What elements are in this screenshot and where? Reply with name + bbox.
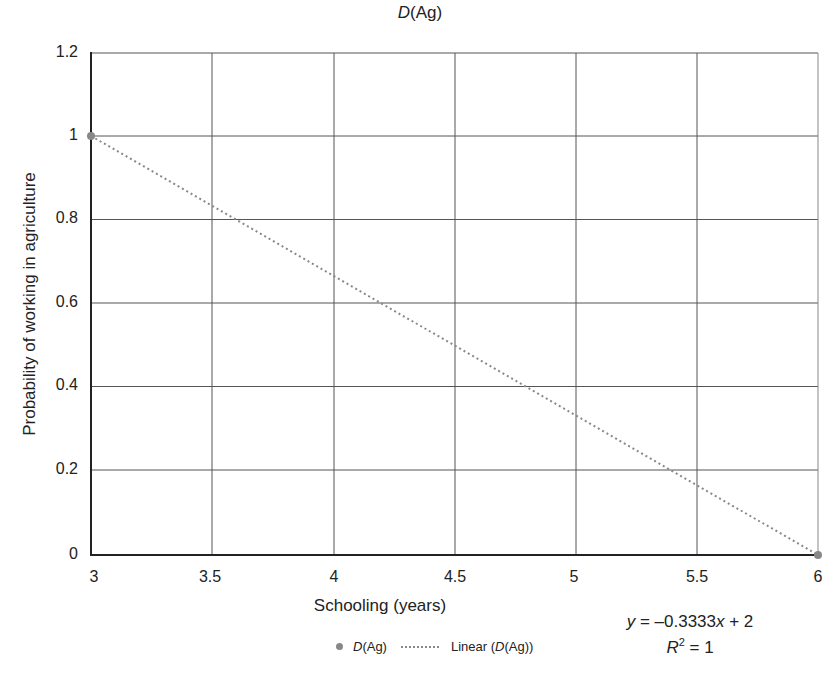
x-tick: 6 bbox=[814, 568, 823, 586]
x-tick: 5.5 bbox=[686, 568, 708, 586]
x-tick: 4.5 bbox=[444, 568, 466, 586]
legend-dotted-line-icon bbox=[401, 646, 439, 648]
legend-marker-icon bbox=[336, 643, 343, 650]
trendline-equation: y = –0.3333x + 2 bbox=[627, 612, 754, 632]
data-point bbox=[87, 132, 95, 140]
grid-lines bbox=[91, 53, 818, 555]
y-tick: 1 bbox=[69, 126, 78, 144]
r-squared: R2 = 1 bbox=[666, 636, 713, 658]
x-tick: 3.5 bbox=[199, 568, 221, 586]
eq-y: y bbox=[627, 612, 636, 631]
data-point bbox=[814, 551, 822, 559]
legend-s2-rest: (Ag)) bbox=[504, 639, 533, 654]
y-tick: 0.8 bbox=[56, 209, 78, 227]
legend-item-trendline: Linear (D(Ag)) bbox=[451, 639, 533, 654]
r-letter: R bbox=[666, 638, 678, 657]
plot-area bbox=[0, 0, 840, 673]
y-axis-label: Probability of working in agriculture bbox=[20, 172, 40, 436]
y-tick: 1.2 bbox=[56, 43, 78, 61]
y-tick: 0.4 bbox=[56, 376, 78, 394]
x-tick: 5 bbox=[570, 568, 579, 586]
legend-s1-italic: D bbox=[353, 639, 362, 654]
x-axis-label: Schooling (years) bbox=[314, 596, 446, 616]
legend-item-series: D(Ag) bbox=[353, 639, 387, 654]
r-end: = 1 bbox=[685, 638, 714, 657]
y-tick: 0.6 bbox=[56, 293, 78, 311]
eq-mid: = –0.3333 bbox=[635, 612, 716, 631]
y-tick: 0.2 bbox=[56, 460, 78, 478]
eq-end: + 2 bbox=[724, 612, 753, 631]
axes-lines bbox=[90, 52, 818, 556]
legend-s2-italic: D bbox=[495, 639, 504, 654]
x-tick: 3 bbox=[90, 568, 99, 586]
legend-s1-rest: (Ag) bbox=[362, 639, 387, 654]
legend: D(Ag) Linear (D(Ag)) bbox=[336, 639, 533, 654]
eq-x: x bbox=[716, 612, 725, 631]
legend-s2-pre: Linear ( bbox=[451, 639, 495, 654]
y-tick: 0 bbox=[69, 545, 78, 563]
x-tick: 4 bbox=[330, 568, 339, 586]
